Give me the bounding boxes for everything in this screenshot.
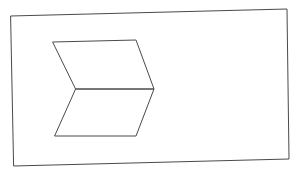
outer-frame [11, 9, 289, 166]
lower-parallelogram [55, 89, 154, 136]
upper-parallelogram [53, 40, 154, 89]
chevron-shape [53, 40, 154, 136]
diagram-canvas [0, 0, 298, 173]
